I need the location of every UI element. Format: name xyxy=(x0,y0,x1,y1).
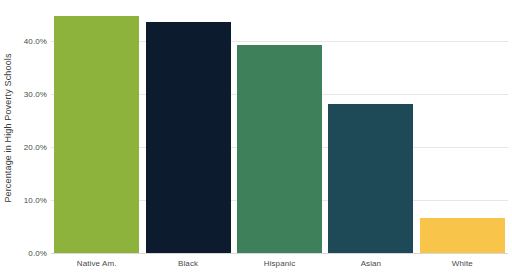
bar xyxy=(328,104,413,253)
x-tick-label: Black xyxy=(142,259,233,268)
y-tick-label: 0.0% xyxy=(3,249,47,258)
gridline xyxy=(51,253,508,254)
y-tick-label: 30.0% xyxy=(3,89,47,98)
bar xyxy=(54,16,139,253)
x-tick-label: Asian xyxy=(325,259,416,268)
x-tick-label: Hispanic xyxy=(234,259,325,268)
x-axis-tick-labels: Native Am.BlackHispanicAsianWhite xyxy=(51,259,508,275)
x-tick-label: White xyxy=(417,259,508,268)
y-tick-label: 40.0% xyxy=(3,36,47,45)
y-tick-label: 10.0% xyxy=(3,195,47,204)
bar xyxy=(146,22,231,253)
x-tick-label: Native Am. xyxy=(51,259,142,268)
bar xyxy=(237,45,322,253)
plot-area xyxy=(51,6,508,253)
y-tick-label: 20.0% xyxy=(3,142,47,151)
bar-chart: Percentage in High Poverty Schools 0.0%1… xyxy=(0,0,512,278)
y-axis-tick-labels: 0.0%10.0%20.0%30.0%40.0% xyxy=(0,6,47,253)
bars-group xyxy=(51,6,508,253)
bar xyxy=(420,218,505,253)
